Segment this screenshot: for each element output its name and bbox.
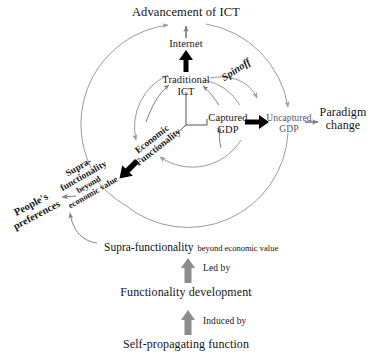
node-functionality-development: Functionality development <box>120 286 251 299</box>
connector-right-branch <box>186 119 207 125</box>
node-traditional-ict: Traditional ICT <box>162 74 209 98</box>
node-paradigm-change-line1: Paradigm <box>320 106 367 119</box>
node-paradigm-change-line2: change <box>320 119 367 132</box>
gray-block-arrow-induced-by <box>181 310 195 335</box>
inner-arc-captured-to-econfunc <box>160 140 241 167</box>
node-supra-functionality-bottom: Supra-functionality beyond economic valu… <box>104 237 278 255</box>
node-uncaptured-gdp-line2: GDP <box>266 124 311 135</box>
supra-bottom-main: Supra-functionality <box>104 241 193 253</box>
diagram-title: Advancement of ICT <box>132 5 240 19</box>
edge-label-led-by: Led by <box>203 263 230 274</box>
node-captured-gdp-line2: GDP <box>208 124 247 136</box>
supra-bottom-sub: beyond economic value <box>197 243 278 253</box>
arc-bottom-supra-to-people <box>70 213 97 243</box>
node-internet: Internet <box>169 38 202 50</box>
diagram-canvas: Advancement of ICT Internet Traditional … <box>0 0 370 361</box>
node-paradigm-change: Paradigm change <box>320 106 367 133</box>
node-traditional-ict-line2: ICT <box>162 86 209 98</box>
node-captured-gdp-line1: Captured <box>208 112 247 124</box>
spinoff-connector <box>210 77 257 98</box>
connector-bottom-supra-to-people <box>70 213 97 243</box>
thick-arrow-ict-to-internet <box>179 50 193 72</box>
node-uncaptured-gdp-line1: Uncaptured <box>266 113 311 124</box>
edge-label-induced-by: Induced by <box>203 316 246 327</box>
node-traditional-ict-line1: Traditional <box>162 74 209 86</box>
gray-block-arrow-led-by <box>181 258 195 283</box>
node-captured-gdp: Captured GDP <box>208 112 247 136</box>
node-uncaptured-gdp: Uncaptured GDP <box>266 113 311 134</box>
node-self-propagating-function: Self-propagating function <box>123 338 249 351</box>
central-connector <box>176 92 207 134</box>
spinoff-arc <box>210 77 257 98</box>
